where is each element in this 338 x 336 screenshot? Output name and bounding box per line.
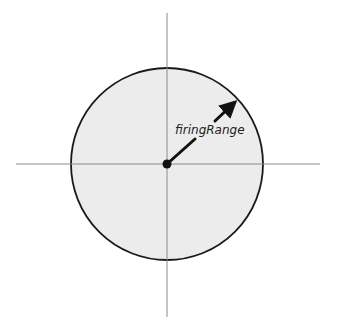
center-dot [163,160,172,169]
firing-range-diagram: firingRange [0,0,338,336]
firing-range-label: firingRange [175,123,245,137]
